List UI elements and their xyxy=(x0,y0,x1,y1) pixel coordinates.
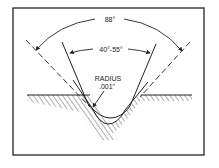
inner-angle-arc-right xyxy=(128,49,150,53)
radius-value: .001" xyxy=(99,83,116,90)
inner-angle-label: 40°-55° xyxy=(99,46,123,53)
outer-angle-label: 88° xyxy=(105,16,116,23)
outer-angle-arc-right xyxy=(124,19,182,51)
radius-label: RADIUS xyxy=(95,75,122,82)
inner-angle-arc-left xyxy=(70,49,93,53)
thread-profile-diagram: 88° 40°-55° RADIUS .001" xyxy=(0,0,219,168)
outer-angle-line-right xyxy=(140,42,190,97)
radius-leader xyxy=(93,91,104,107)
outer-angle-arc-left xyxy=(36,19,95,50)
